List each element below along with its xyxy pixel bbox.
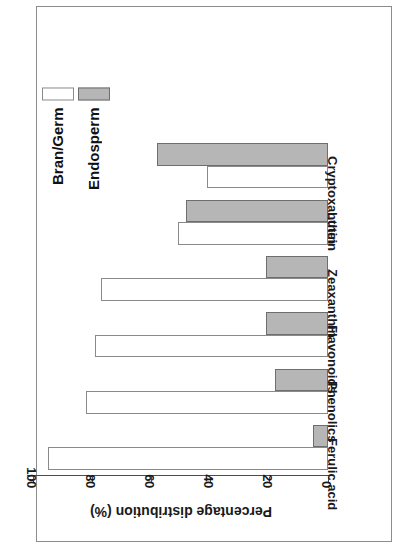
value-axis-title-holder: Percentage distribution (%) xyxy=(33,504,328,524)
value-axis-title: Percentage distribution (%) xyxy=(33,504,329,520)
category-label: Ferulic acid xyxy=(325,437,340,509)
legend-swatch xyxy=(78,87,110,100)
bar-phenolics-endosperm xyxy=(274,368,327,391)
axis-tick-label: 100 xyxy=(24,467,39,488)
bar-zeaxanthin-bran-germ xyxy=(100,278,327,301)
plot-wrapper: Percentage distribution (%) 100806040200… xyxy=(24,30,376,520)
legend-label: Endosperm xyxy=(85,107,102,190)
axis-tick-label: 40 xyxy=(201,474,216,488)
bar-cryptoxanthin-endosperm xyxy=(156,143,327,166)
bar-ferulic-acid-bran-germ xyxy=(47,447,327,470)
bar-lutein-bran-germ xyxy=(177,222,327,245)
legend-swatch xyxy=(42,87,74,100)
bar-lutein-endosperm xyxy=(186,199,328,222)
figure-container: Percentage distribution (%) 100806040200… xyxy=(0,0,399,549)
value-axis-line xyxy=(27,475,330,476)
category-label: Cryptoxanthin xyxy=(325,156,340,244)
legend-item-bran-germ: Bran/Germ xyxy=(42,87,74,190)
bar-flavonoids-bran-germ xyxy=(94,334,327,357)
bar-zeaxanthin-endosperm xyxy=(266,255,328,278)
legend-item-endosperm: Endosperm xyxy=(78,87,110,190)
rotated-chart-canvas: Percentage distribution (%) 100806040200… xyxy=(24,30,376,520)
axis-tick-label: 80 xyxy=(83,474,98,488)
bar-flavonoids-endosperm xyxy=(266,312,328,335)
legend-label: Bran/Germ xyxy=(49,107,66,185)
category-label: Zeaxanthin xyxy=(325,268,340,337)
bar-phenolics-bran-germ xyxy=(86,391,328,414)
axis-tick-label: 60 xyxy=(142,474,157,488)
chart-legend: Bran/GermEndosperm xyxy=(42,87,110,190)
bar-cryptoxanthin-bran-germ xyxy=(207,165,328,188)
axis-tick-label: 20 xyxy=(260,474,275,488)
